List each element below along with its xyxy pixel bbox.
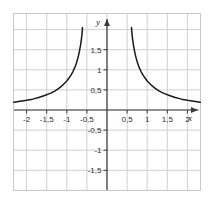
y-tick-label: 0,5: [90, 86, 102, 95]
x-tick-label: 1,5: [162, 115, 174, 124]
x-tick-label: 1: [145, 115, 150, 124]
y-axis-label: y: [95, 17, 100, 27]
x-axis-label: x: [187, 113, 192, 123]
x-tick-label: -0,5: [80, 115, 94, 124]
y-tick-label: 1: [97, 66, 102, 75]
y-tick-label: 1,5: [90, 46, 102, 55]
y-tick-label: -1,5: [88, 166, 102, 175]
x-tick-label: -1: [63, 115, 71, 124]
x-tick-label: 0,5: [122, 115, 134, 124]
y-tick-label: -1: [94, 146, 102, 155]
coordinate-plane: -2-1,5-1-0,50,511,52 1,510,5-0,5-1-1,5 x…: [0, 0, 214, 207]
x-tick-label: -2: [23, 115, 31, 124]
x-tick-label: -1,5: [40, 115, 54, 124]
function-plot-figure: -2-1,5-1-0,50,511,52 1,510,5-0,5-1-1,5 x…: [0, 0, 214, 207]
y-tick-label: -0,5: [88, 126, 102, 135]
